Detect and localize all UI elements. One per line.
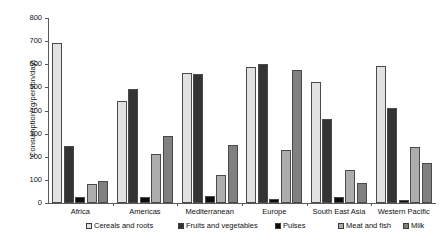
legend-label: Pulses <box>283 222 306 230</box>
y-axis-tick-label: 200 <box>4 153 42 161</box>
chart-legend: Cereals and rootsFruits and vegetablesPu… <box>48 222 436 234</box>
bar-chart: Consumption (g/person/day) 8007006005004… <box>0 0 442 243</box>
legend-swatch-icon <box>403 223 409 229</box>
legend-item: Fruits and vegetables <box>178 222 258 230</box>
legend-item: Meat and fish <box>338 222 391 230</box>
bar-groups: AfricaAmericasMediterraneanEuropeSouth E… <box>48 18 436 203</box>
legend-item: Pulses <box>275 222 306 230</box>
bar <box>151 154 161 203</box>
bar <box>128 89 138 203</box>
x-axis-tick-mark <box>371 203 372 206</box>
x-axis-tick-mark <box>242 203 243 206</box>
bar <box>399 200 409 203</box>
bar <box>216 175 226 203</box>
x-axis-category-label: Europe <box>242 208 307 216</box>
legend-item: Milk <box>403 222 424 230</box>
bar-group <box>48 18 113 203</box>
bar <box>75 197 85 203</box>
legend-label: Milk <box>411 222 424 230</box>
y-axis-tick-label: 600 <box>4 60 42 68</box>
bar <box>52 43 62 203</box>
bar <box>258 64 268 203</box>
y-axis-tick-label: 100 <box>4 176 42 184</box>
y-axis-tick-label: 0 <box>4 199 42 207</box>
legend-swatch-icon <box>178 223 184 229</box>
bar <box>357 183 367 203</box>
x-axis-category-label: Americas <box>113 208 178 216</box>
bar <box>311 82 321 203</box>
bar <box>193 74 203 203</box>
x-axis-category-label: Mediterranean <box>177 208 242 216</box>
x-axis-category-label: Africa <box>48 208 113 216</box>
bar <box>140 197 150 203</box>
legend-label: Cereals and roots <box>94 222 153 230</box>
bar <box>87 184 97 203</box>
plot-area: 8007006005004003002001000 AfricaAmericas… <box>48 18 436 203</box>
legend-swatch-icon <box>86 223 92 229</box>
bar <box>387 108 397 203</box>
bar <box>228 145 238 203</box>
x-axis-category-label: Western Pacific <box>371 208 436 216</box>
y-axis-tick-label: 800 <box>4 14 42 22</box>
bar-group <box>177 18 242 203</box>
bar <box>246 67 256 203</box>
legend-label: Meat and fish <box>346 222 391 230</box>
bar <box>410 147 420 203</box>
x-axis-tick-mark <box>113 203 114 206</box>
y-axis-tick-label: 700 <box>4 37 42 45</box>
bar <box>205 196 215 203</box>
bar-group <box>113 18 178 203</box>
legend-item: Cereals and roots <box>86 222 153 230</box>
bar <box>269 199 279 203</box>
bar <box>292 70 302 203</box>
bar <box>322 119 332 203</box>
bar <box>422 163 432 203</box>
legend-swatch-icon <box>338 223 344 229</box>
bar <box>98 181 108 203</box>
y-axis-tick-label: 300 <box>4 130 42 138</box>
x-axis-tick-mark <box>177 203 178 206</box>
bar-group <box>307 18 372 203</box>
y-axis-tick-label: 400 <box>4 107 42 115</box>
bar <box>334 197 344 203</box>
legend-label: Fruits and vegetables <box>186 222 258 230</box>
bar <box>182 73 192 203</box>
bar <box>376 66 386 203</box>
x-axis-tick-mark <box>307 203 308 206</box>
x-axis-category-label: South East Asia <box>307 208 372 216</box>
bar <box>281 150 291 203</box>
legend-swatch-icon <box>275 223 281 229</box>
y-axis-tick-label: 500 <box>4 83 42 91</box>
bar <box>163 136 173 203</box>
bar <box>345 170 355 203</box>
bar <box>64 146 74 203</box>
y-axis-tick-mark <box>45 203 48 204</box>
bar-group <box>371 18 436 203</box>
bar-group <box>242 18 307 203</box>
bar <box>117 101 127 203</box>
